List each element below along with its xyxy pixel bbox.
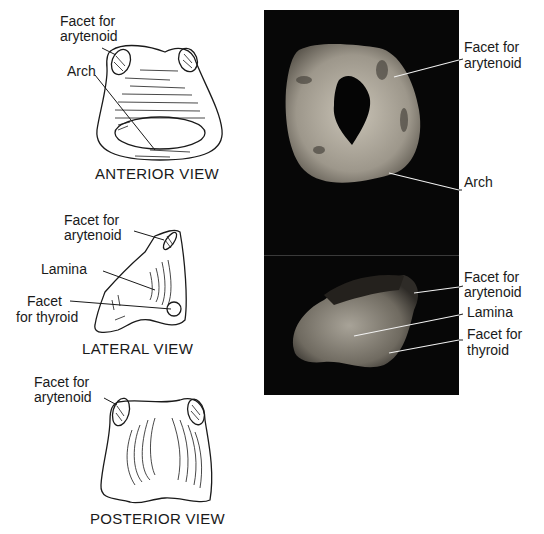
anterior-facet-label-line2: arytenoid [60, 29, 118, 44]
photo-divider [264, 255, 459, 256]
lateral-view-caption: LATERAL VIEW [82, 340, 193, 357]
photo-top-facet-label-line2: arytenoid [464, 56, 522, 71]
specimen-photos [264, 10, 459, 395]
cricoid-lateral-photo [293, 275, 418, 367]
photo-top-arch-label: Arch [464, 175, 493, 190]
specimen-photo-panel [264, 10, 459, 395]
photo-bottom-thyroid-label-line1: Facet for [467, 327, 522, 342]
lateral-thyroid-facet-label-line1: Facet [27, 294, 62, 309]
lateral-facet-label-line1: Facet for [64, 213, 119, 228]
cricoid-ring-photo [286, 44, 421, 183]
photo-bottom-facet-label-line2: arytenoid [464, 285, 522, 300]
anterior-arch-label: Arch [67, 64, 96, 79]
anterior-view-caption: ANTERIOR VIEW [95, 165, 219, 182]
posterior-view-caption: POSTERIOR VIEW [90, 510, 225, 527]
line-drawings [0, 0, 264, 534]
lateral-lamina-label: Lamina [41, 262, 87, 277]
lateral-thyroid-facet-label-line2: for thyroid [16, 310, 78, 325]
photo-bottom-lamina-label: Lamina [467, 305, 513, 320]
anterior-view-drawing [95, 46, 222, 160]
photo-top-facet-label-line1: Facet for [464, 40, 519, 55]
photo-bottom-facet-label-line1: Facet for [464, 270, 519, 285]
posterior-facet-label-line1: Facet for [34, 375, 89, 390]
posterior-view-drawing [101, 396, 212, 502]
photo-bottom-thyroid-label-line2: thyroid [467, 343, 509, 358]
lateral-facet-label-line2: arytenoid [64, 228, 122, 243]
anterior-facet-label-line1: Facet for [60, 14, 115, 29]
posterior-facet-label-line2: arytenoid [34, 390, 92, 405]
lateral-view-drawing [70, 230, 186, 332]
